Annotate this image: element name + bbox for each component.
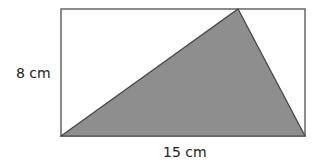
geometry-figure: 8 cm 15 cm xyxy=(0,0,320,166)
figure-canvas xyxy=(0,0,320,166)
width-label: 15 cm xyxy=(163,145,207,159)
height-label: 8 cm xyxy=(16,66,51,80)
